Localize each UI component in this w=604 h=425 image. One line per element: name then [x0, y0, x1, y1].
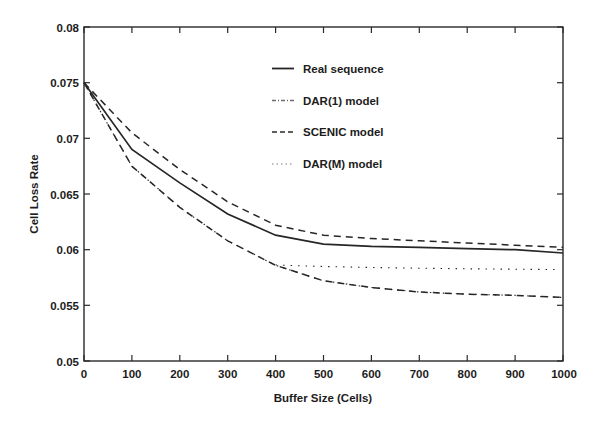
y-tick-label: 0.075 — [50, 77, 79, 89]
x-tick-label: 100 — [122, 368, 141, 380]
legend-label-real-sequence: Real sequence — [303, 63, 384, 75]
series-line-dar-m — [84, 83, 563, 298]
y-tick-labels: 0.05 0.055 0.06 0.065 0.07 0.075 0.08 — [50, 22, 79, 368]
y-axis-title: Cell Loss Rate — [28, 154, 40, 233]
chart-figure: 0 100 200 300 400 500 600 700 800 900 10… — [0, 0, 604, 425]
y-axis-ticks — [84, 27, 563, 361]
x-tick-label: 600 — [362, 368, 381, 380]
x-axis-title: Buffer Size (Cells) — [274, 392, 373, 404]
y-tick-label: 0.065 — [50, 189, 79, 201]
line-chart: 0 100 200 300 400 500 600 700 800 900 10… — [0, 0, 604, 425]
legend-label-dar-m: DAR(M) model — [303, 158, 382, 170]
legend-label-scenic: SCENIC model — [303, 126, 384, 138]
y-tick-label: 0.055 — [50, 300, 79, 312]
legend-label-dar-1: DAR(1) model — [303, 95, 379, 107]
x-tick-label: 900 — [506, 368, 525, 380]
plot-frame — [84, 27, 563, 361]
y-tick-label: 0.06 — [57, 244, 79, 256]
x-tick-label: 300 — [218, 368, 237, 380]
x-tick-label: 0 — [81, 368, 87, 380]
x-tick-label: 800 — [458, 368, 477, 380]
x-axis-ticks — [84, 27, 563, 361]
x-tick-label: 200 — [170, 368, 189, 380]
series-line-lower-bound — [84, 83, 563, 298]
y-tick-label: 0.07 — [57, 133, 79, 145]
series-line-dar-m-overlay — [276, 265, 560, 270]
y-tick-label: 0.08 — [57, 22, 80, 34]
y-tick-label: 0.05 — [57, 356, 80, 368]
x-tick-label: 1000 — [551, 368, 577, 380]
legend: Real sequence DAR(1) model SCENIC model … — [272, 63, 384, 171]
x-tick-label: 400 — [266, 368, 285, 380]
x-tick-label: 500 — [314, 368, 333, 380]
x-tick-label: 700 — [410, 368, 429, 380]
x-tick-labels: 0 100 200 300 400 500 600 700 800 900 10… — [81, 368, 577, 380]
